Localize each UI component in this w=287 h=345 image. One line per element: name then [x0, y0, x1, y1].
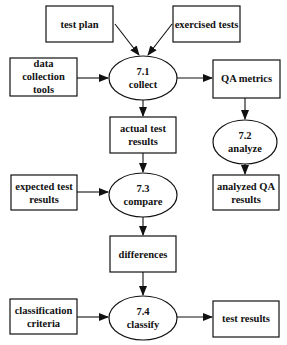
node-label: differences	[119, 249, 168, 260]
node-label: test results	[222, 313, 270, 324]
process-label: classify	[127, 319, 160, 330]
node-test-plan: test plan	[46, 6, 113, 42]
process-number: 7.4	[136, 306, 150, 317]
process-label: collect	[129, 79, 158, 90]
process-number: 7.1	[136, 66, 149, 77]
node-analyzed-qa-results: analyzed QA results	[213, 175, 279, 210]
node-actual-test-results: actual test results	[110, 117, 176, 153]
node-label: test plan	[60, 19, 98, 30]
edge-test-plan-to-collect	[115, 24, 139, 55]
node-label: tools	[33, 84, 54, 95]
process-7-3-compare: 7.3 compare	[109, 173, 177, 217]
edge-exercised-tests-to-collect	[148, 24, 172, 55]
node-qa-metrics: QA metrics	[213, 60, 280, 98]
node-data-collection-tools: data collection tools	[10, 58, 77, 96]
node-label: results	[231, 194, 261, 205]
node-label: expected test	[15, 181, 73, 192]
node-classification-criteria: classification criteria	[10, 299, 77, 334]
node-label: exercised tests	[175, 19, 239, 30]
node-expected-test-results: expected test results	[11, 175, 77, 210]
process-label: compare	[124, 196, 163, 207]
node-label: actual test	[120, 123, 166, 134]
node-label: data	[34, 58, 55, 69]
node-label: analyzed QA	[217, 181, 275, 192]
node-label: criteria	[27, 318, 61, 329]
node-differences: differences	[110, 236, 176, 272]
process-7-1-collect: 7.1 collect	[109, 56, 177, 100]
node-label: results	[29, 194, 59, 205]
process-7-4-classify: 7.4 classify	[109, 296, 177, 340]
node-exercised-tests: exercised tests	[173, 6, 240, 42]
node-test-results: test results	[213, 301, 279, 337]
node-label: QA metrics	[221, 73, 272, 84]
process-7-2-analyze: 7.2 analyze	[213, 120, 277, 164]
qa-process-diagram: test plan exercised tests data collectio…	[0, 0, 287, 345]
node-label: classification	[15, 305, 73, 316]
node-label: results	[128, 136, 158, 147]
process-number: 7.2	[238, 130, 251, 141]
process-number: 7.3	[136, 183, 149, 194]
node-label: collection	[22, 71, 65, 82]
process-label: analyze	[228, 143, 262, 154]
